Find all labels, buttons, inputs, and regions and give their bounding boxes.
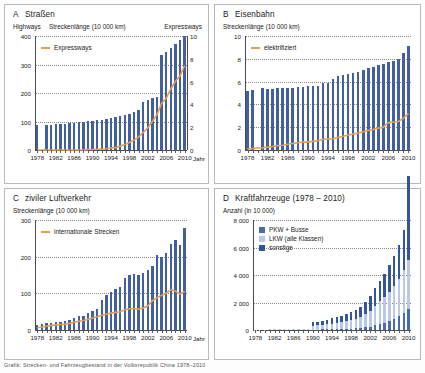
- panel-b-legend: elektrifiziert: [251, 43, 296, 52]
- x-axis-tick: [74, 150, 75, 153]
- y-axis-line: [253, 220, 254, 330]
- y-axis-tick-label: 2 000: [217, 299, 249, 306]
- bar-segment: [336, 317, 338, 323]
- line-series: [35, 36, 187, 150]
- x-axis-tick-label: 1994: [321, 154, 335, 161]
- x-axis-tick: [370, 330, 371, 333]
- y-axis-tick-label: 6 000: [217, 244, 249, 251]
- x-axis-tick-label: 2002: [363, 334, 377, 341]
- panel-c-plot: 0100200300197819821986199019941998200220…: [35, 220, 187, 330]
- panel-c-letter: C: [13, 194, 25, 203]
- x-axis-tick: [308, 330, 309, 333]
- bar-segment: [321, 321, 323, 325]
- x-axis-tick: [380, 330, 381, 333]
- x-axis-tick: [328, 150, 329, 153]
- panel-a-title-text: Straßen: [25, 10, 55, 19]
- x-axis-tick: [162, 330, 163, 333]
- x-axis-tick: [333, 150, 334, 153]
- bar-segment: [393, 286, 395, 319]
- bar-segment: [398, 316, 400, 330]
- bar-segment: [350, 320, 352, 329]
- x-axis-tick: [152, 150, 153, 153]
- x-axis-tick: [342, 330, 343, 333]
- x-axis-tick: [358, 150, 359, 153]
- y-axis-tick-label: 0: [217, 327, 249, 334]
- x-axis-tick: [42, 150, 43, 153]
- panel-b-axis-unit-label: Streckenlänge (10 000 km): [223, 23, 300, 30]
- bar-segment: [403, 313, 405, 330]
- y-axis-tick-label: 100: [7, 118, 31, 125]
- bar-segment: [364, 302, 366, 314]
- x-axis-tick: [346, 330, 347, 333]
- x-axis-tick: [162, 150, 163, 153]
- x-axis-tick: [388, 150, 389, 153]
- y-axis-right-tick-label: 8: [190, 55, 193, 62]
- bar-segment: [364, 314, 366, 327]
- panel-c-title-text: ziviler Luftverkehr: [25, 194, 91, 203]
- x-axis-tick: [385, 330, 386, 333]
- x-axis-tick-label: 1978: [30, 334, 44, 341]
- x-axis-tick: [42, 330, 43, 333]
- x-axis-tick: [79, 150, 80, 153]
- x-axis-tick-label: 2010: [178, 334, 192, 341]
- y-axis-tick-label: 4: [217, 101, 241, 108]
- x-axis-tick: [288, 150, 289, 153]
- x-axis-tick: [51, 150, 52, 153]
- x-axis-tick: [175, 150, 176, 153]
- x-axis-tick: [97, 330, 98, 333]
- x-axis-tick: [134, 150, 135, 153]
- x-axis-tick: [180, 150, 181, 153]
- y-axis-tick-label: 0: [7, 327, 31, 334]
- x-axis-tick-label: 1986: [287, 334, 301, 341]
- bar-segment: [355, 319, 357, 329]
- x-axis-tick: [343, 150, 344, 153]
- legend-item: elektrifiziert: [251, 43, 296, 52]
- x-axis-tick-label: 1982: [49, 334, 63, 341]
- panel-a-axis-right-label: Expressways: [164, 23, 202, 30]
- x-axis-tick: [106, 330, 107, 333]
- bar-segment: [393, 256, 395, 286]
- panel-a-axis-left-label: Highways: [13, 23, 41, 30]
- panel-d-kraftfahrzeuge: DKraftfahrzeuge (1978 – 2010) Anzahl (in…: [214, 188, 421, 360]
- x-axis-tick: [83, 150, 84, 153]
- y-axis-tick-label: 6: [217, 78, 241, 85]
- panel-b-title: BEisenbahn: [223, 10, 275, 19]
- bar-segment: [407, 260, 409, 310]
- x-axis-tick-label: 2010: [402, 334, 416, 341]
- x-axis-tick: [327, 330, 328, 333]
- legend-swatch: [259, 227, 265, 233]
- y-axis-tick-label: 0: [7, 147, 31, 154]
- panel-a-title: AStraßen: [13, 10, 55, 19]
- x-axis-tick-label: 2002: [361, 154, 375, 161]
- y-axis-right-tick-label: 2: [190, 124, 193, 131]
- bar-segment: [407, 176, 409, 260]
- bar-segment: [403, 230, 405, 270]
- y-axis-tick-label: 200: [7, 253, 31, 260]
- x-axis-tick-label: 1998: [341, 154, 355, 161]
- x-axis-tick: [70, 330, 71, 333]
- x-axis-tick: [270, 330, 271, 333]
- bar-segment: [393, 319, 395, 330]
- bar-segment: [336, 323, 338, 329]
- y-axis-tick-label: 8: [217, 55, 241, 62]
- y-axis-tick-label: 2: [217, 124, 241, 131]
- x-axis-tick: [389, 330, 390, 333]
- x-axis-tick-label: 1998: [344, 334, 358, 341]
- x-axis-tick: [134, 330, 135, 333]
- x-axis-tick: [60, 330, 61, 333]
- legend-swatch: [259, 245, 265, 251]
- x-axis-tick: [157, 150, 158, 153]
- x-axis-tick: [313, 150, 314, 153]
- bar-segment: [359, 307, 361, 317]
- bar-segment: [316, 322, 318, 326]
- x-axis-tick: [65, 330, 66, 333]
- bar-segment: [350, 312, 352, 320]
- x-axis-tick: [258, 150, 259, 153]
- legend-line-marker: [41, 231, 50, 233]
- x-axis-tick: [313, 330, 314, 333]
- y-axis-right-tick-label: 0: [190, 147, 193, 154]
- x-axis-tick: [129, 330, 130, 333]
- x-axis-tick: [88, 330, 89, 333]
- x-axis-tick: [275, 330, 276, 333]
- y-axis-tick-label: 400: [7, 33, 31, 40]
